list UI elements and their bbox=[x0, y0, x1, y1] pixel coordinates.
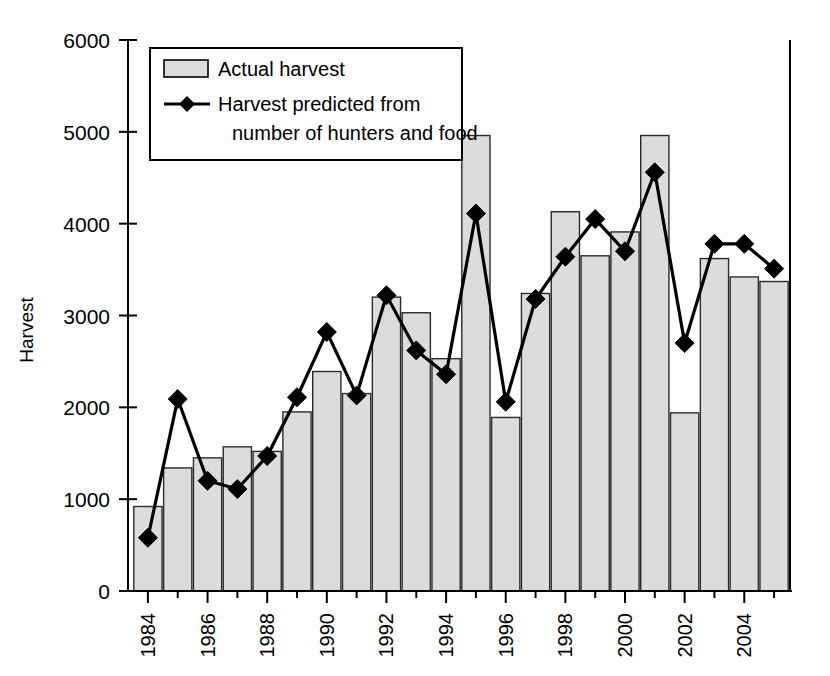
harvest-chart: Harvest 0100020003000400050006000 198419… bbox=[0, 0, 830, 676]
x-tick-label: 1998 bbox=[554, 613, 576, 658]
x-tick-label: 2002 bbox=[674, 613, 696, 658]
y-tick-label: 6000 bbox=[63, 29, 110, 52]
y-tick-label: 2000 bbox=[63, 396, 110, 419]
y-tick-label: 1000 bbox=[63, 488, 110, 511]
x-tick-label: 1994 bbox=[435, 613, 457, 658]
y-tick-label: 3000 bbox=[63, 305, 110, 328]
x-axis-ticks: 1984198619881990199219941996199820002002… bbox=[137, 591, 774, 658]
predicted-harvest-diamond-marker bbox=[496, 392, 515, 411]
bar-actual-harvest bbox=[641, 136, 669, 591]
bar-actual-harvest bbox=[134, 507, 162, 591]
predicted-harvest-diamond-marker bbox=[675, 334, 694, 353]
y-axis-title: Harvest bbox=[16, 297, 37, 363]
x-tick-label: 2004 bbox=[733, 613, 755, 658]
y-tick-label: 0 bbox=[98, 580, 110, 603]
bar-actual-harvest bbox=[164, 468, 192, 591]
bar-actual-harvest bbox=[372, 297, 400, 591]
bar-actual-harvest bbox=[343, 394, 371, 591]
bar-actual-harvest bbox=[253, 451, 281, 591]
chart-legend: Actual harvest Harvest predicted from nu… bbox=[150, 48, 478, 160]
bar-actual-harvest bbox=[492, 417, 520, 591]
bar-actual-harvest bbox=[313, 372, 341, 591]
x-tick-label: 2000 bbox=[614, 613, 636, 658]
x-tick-label: 1984 bbox=[137, 613, 159, 658]
legend-swatch-actual-harvest bbox=[164, 60, 208, 77]
x-tick-label: 1996 bbox=[495, 613, 517, 658]
bar-actual-harvest bbox=[760, 282, 788, 591]
x-tick-label: 1990 bbox=[316, 613, 338, 658]
bar-actual-harvest bbox=[223, 447, 251, 591]
bar-actual-harvest bbox=[700, 259, 728, 591]
bar-actual-harvest bbox=[432, 359, 460, 591]
y-tick-label: 5000 bbox=[63, 121, 110, 144]
x-tick-label: 1986 bbox=[197, 613, 219, 658]
predicted-harvest-diamond-marker bbox=[168, 390, 187, 409]
legend-label-predicted-harvest-line2: number of hunters and food bbox=[232, 122, 478, 144]
x-tick-label: 1992 bbox=[375, 613, 397, 658]
bar-actual-harvest bbox=[611, 232, 639, 591]
bar-actual-harvest bbox=[730, 277, 758, 591]
predicted-harvest-diamond-marker bbox=[705, 234, 724, 253]
bar-series-actual-harvest bbox=[134, 136, 788, 591]
bar-actual-harvest bbox=[283, 412, 311, 591]
chart-canvas: Harvest 0100020003000400050006000 198419… bbox=[0, 0, 830, 676]
x-tick-label: 1988 bbox=[256, 613, 278, 658]
bar-actual-harvest bbox=[671, 413, 699, 591]
legend-label-actual-harvest: Actual harvest bbox=[218, 58, 345, 80]
y-tick-label: 4000 bbox=[63, 213, 110, 236]
bar-actual-harvest bbox=[581, 256, 609, 591]
predicted-harvest-diamond-marker bbox=[317, 323, 336, 342]
legend-label-predicted-harvest-line1: Harvest predicted from bbox=[218, 93, 420, 115]
y-axis-ticks: 0100020003000400050006000 bbox=[63, 29, 137, 603]
predicted-harvest-diamond-marker bbox=[288, 388, 307, 407]
